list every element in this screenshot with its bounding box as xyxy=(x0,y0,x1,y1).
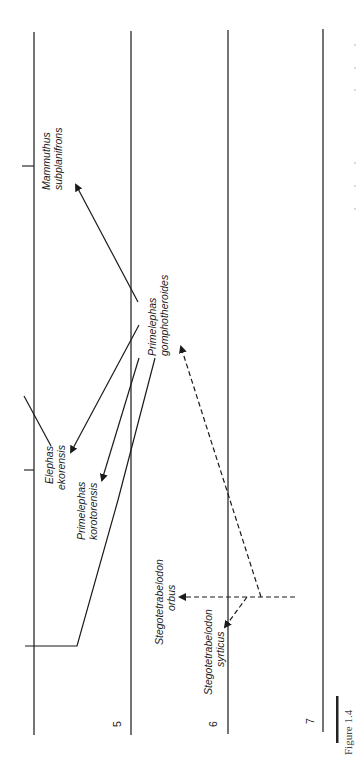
svg-text:orbus: orbus xyxy=(165,584,177,611)
label-primelephas-korotorensis: Primelephas korotorensis xyxy=(75,481,99,540)
link-stego-to-gomph xyxy=(181,347,261,597)
svg-text:Primelephas: Primelephas xyxy=(75,481,87,540)
svg-text:Primelephas: Primelephas xyxy=(146,297,158,356)
figure-label: Figure 1.4 xyxy=(342,709,354,755)
label-mammuthus: Mammuthus subplanifrons xyxy=(40,127,64,190)
label-elephas: Elephas ekorensis xyxy=(43,444,67,490)
taxon-labels: Mammuthus subplanifrons Elephas ekorensi… xyxy=(40,127,226,695)
svg-text:syrticus: syrticus xyxy=(214,631,226,667)
phylogeny-figure: Mammuthus subplanifrons Elephas ekorensi… xyxy=(0,0,356,757)
svg-text:subplanifrons: subplanifrons xyxy=(52,127,64,190)
edge-dots xyxy=(354,44,355,209)
svg-text:Stegotetrabelodon: Stegotetrabelodon xyxy=(202,609,214,695)
caption-bar xyxy=(336,696,339,743)
time-tick-labels: 5 6 7 xyxy=(111,718,316,727)
tick-6: 6 xyxy=(207,721,219,727)
svg-text:Stegotetrabelodon: Stegotetrabelodon xyxy=(153,559,165,645)
solid-lineages xyxy=(24,185,155,646)
tick-5: 5 xyxy=(111,721,123,727)
svg-text:korotorensis: korotorensis xyxy=(87,482,99,540)
svg-text:ekorensis: ekorensis xyxy=(55,444,67,490)
link-gomph-to-mammuthus xyxy=(76,185,138,302)
link-gomph-to-koro xyxy=(102,358,139,480)
dashed-lineages xyxy=(180,347,295,627)
link-gomph-to-elephas xyxy=(71,325,139,452)
figure-caption: Figure 1.4 xyxy=(336,696,354,755)
link-outgroup-elephas xyxy=(24,396,51,446)
svg-text:Mammuthus: Mammuthus xyxy=(40,131,52,190)
label-primelephas-gomphotheroides: Primelephas gomphotheroides xyxy=(146,274,170,356)
svg-text:Elephas: Elephas xyxy=(43,445,55,484)
svg-text:gomphotheroides: gomphotheroides xyxy=(158,274,170,356)
range-ticks xyxy=(22,166,34,470)
label-stegotetrabelodon-orbus: Stegotetrabelodon orbus xyxy=(153,559,177,645)
time-gridlines xyxy=(34,29,323,735)
label-stegotetrabelodon-syrticus: Stegotetrabelodon syrticus xyxy=(202,609,226,695)
tick-7: 7 xyxy=(304,718,316,724)
